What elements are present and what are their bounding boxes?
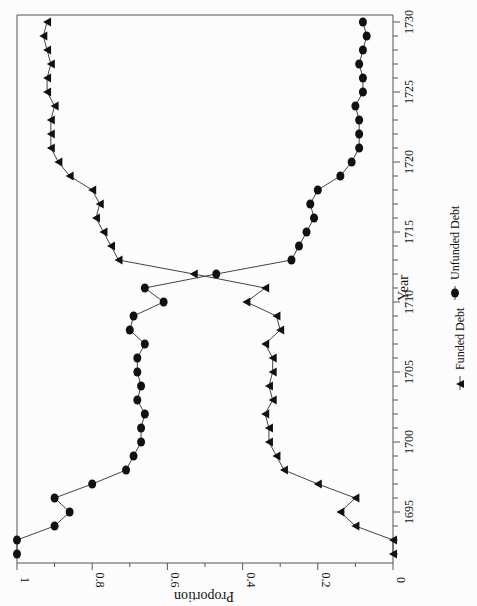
circle-marker-icon (141, 284, 149, 293)
circle-marker-icon (355, 144, 363, 153)
circle-marker-icon (130, 452, 138, 461)
year-tick-label: 1705 (402, 360, 416, 384)
triangle-marker-icon (107, 242, 115, 251)
circle-marker-icon (137, 424, 145, 433)
triangle-marker-icon (261, 284, 269, 293)
circle-marker-icon (359, 46, 367, 55)
circle-marker-icon (51, 522, 59, 531)
series-funded-debt (39, 18, 397, 559)
circle-marker-icon (13, 550, 21, 559)
proportion-tick-label: 0.6 (168, 573, 182, 588)
series-line (17, 22, 367, 554)
year-tick-label: 1730 (402, 10, 416, 34)
circle-marker-icon (141, 410, 149, 419)
triangle-marker-icon (39, 32, 47, 41)
year-tick-label: 1715 (402, 220, 416, 244)
triangle-marker-icon (269, 396, 277, 405)
circle-marker-icon (359, 74, 367, 83)
triangle-marker-icon (115, 256, 123, 265)
triangle-marker-icon (336, 508, 344, 517)
proportion-tick-label: 0.8 (93, 573, 107, 588)
circle-marker-icon (66, 508, 74, 517)
circle-marker-icon (306, 200, 314, 209)
circle-marker-icon (287, 256, 295, 265)
triangle-marker-icon (43, 46, 51, 55)
circle-marker-icon (122, 466, 130, 475)
circle-marker-icon (310, 214, 318, 223)
circle-marker-icon (126, 326, 134, 335)
triangle-marker-icon (88, 186, 96, 195)
year-tick-label: 1720 (402, 150, 416, 174)
triangle-marker-icon (99, 228, 107, 237)
circle-marker-icon (336, 172, 344, 181)
circle-marker-icon (348, 158, 356, 167)
triangle-marker-icon (51, 102, 59, 111)
triangle-marker-icon (92, 214, 100, 223)
proportion-tick-label: 0.4 (244, 573, 258, 588)
series-unfunded-debt (13, 18, 371, 559)
circle-marker-icon (451, 289, 459, 298)
circle-marker-icon (351, 102, 359, 111)
triangle-marker-icon (47, 60, 55, 69)
circle-marker-icon (355, 130, 363, 139)
circle-marker-icon (303, 228, 311, 237)
proportion-tick-label: 1 (18, 577, 32, 583)
circle-marker-icon (137, 438, 145, 447)
legend: Funded Debt Unfunded Debt (448, 205, 467, 390)
triangle-marker-icon (265, 382, 273, 391)
circle-marker-icon (141, 340, 149, 349)
plot-frame (17, 15, 393, 563)
triangle-marker-icon (261, 340, 269, 349)
series-line (43, 22, 393, 554)
circle-marker-icon (363, 32, 371, 41)
circle-marker-icon (355, 116, 363, 125)
y-axis-title: Proportion (174, 589, 234, 604)
legend-item-unfunded: Unfunded Debt (448, 205, 462, 300)
triangle-marker-icon (43, 18, 51, 27)
year-tick-label: 1725 (402, 80, 416, 104)
year-tick-label: 1695 (402, 500, 416, 524)
triangle-marker-icon (272, 312, 280, 321)
chart-canvas: 16951700170517101715172017251730 00.20.4… (0, 0, 477, 606)
circle-marker-icon (359, 88, 367, 97)
circle-marker-icon (137, 382, 145, 391)
circle-marker-icon (13, 536, 21, 545)
circle-marker-icon (88, 480, 96, 489)
circle-marker-icon (314, 186, 322, 195)
circle-marker-icon (133, 354, 141, 363)
circle-marker-icon (160, 298, 168, 307)
triangle-marker-icon (54, 158, 62, 167)
triangle-marker-icon (272, 452, 280, 461)
circle-marker-icon (212, 270, 220, 279)
circle-marker-icon (51, 494, 59, 503)
year-tick-label: 1700 (402, 430, 416, 454)
circle-marker-icon (130, 312, 138, 321)
proportion-axis-ticks: 00.20.40.60.81 (17, 563, 408, 588)
legend-label-unfunded: Unfunded Debt (448, 205, 462, 280)
triangle-marker-icon (242, 298, 250, 307)
x-axis-title: Year (396, 275, 411, 301)
legend-label-funded: Funded Debt (453, 307, 467, 370)
triangle-marker-icon (314, 480, 322, 489)
proportion-tick-label: 0.2 (319, 573, 333, 588)
triangle-marker-icon (261, 410, 269, 419)
proportion-tick-label: 0 (394, 577, 408, 583)
legend-item-funded: Funded Debt (453, 307, 467, 390)
circle-marker-icon (359, 18, 367, 27)
triangle-marker-icon (96, 200, 104, 209)
triangle-marker-icon (190, 270, 198, 279)
circle-marker-icon (133, 396, 141, 405)
circle-marker-icon (295, 242, 303, 251)
circle-marker-icon (133, 368, 141, 377)
circle-marker-icon (355, 60, 363, 69)
triangle-marker-icon (280, 466, 288, 475)
